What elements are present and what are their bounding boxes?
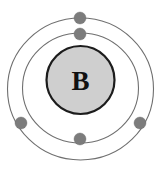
electron-inner-right	[134, 117, 146, 129]
electron-inner-left	[15, 117, 27, 129]
nucleus-element-symbol: B	[71, 66, 89, 96]
electron-inner-top	[74, 28, 86, 40]
atom-diagram-canvas: B	[0, 0, 161, 170]
bohr-model-diagram: B	[0, 0, 161, 170]
electron-outer-top	[74, 12, 86, 24]
electron-inner-bottom	[74, 133, 86, 145]
